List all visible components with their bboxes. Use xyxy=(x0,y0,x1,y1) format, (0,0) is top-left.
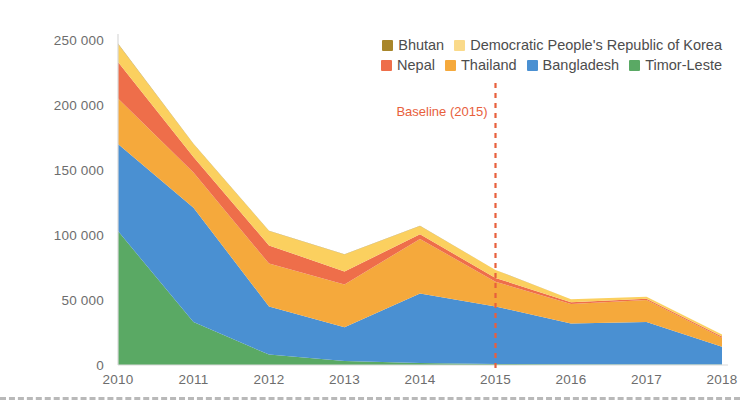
x-axis-labels: 201020112012201320142015201620172018 xyxy=(0,372,740,396)
x-tick-label: 2015 xyxy=(480,372,511,387)
x-tick-label: 2016 xyxy=(556,372,587,387)
x-tick-label: 2011 xyxy=(179,372,209,387)
x-tick-label: 2010 xyxy=(103,372,134,387)
x-tick-label: 2014 xyxy=(405,372,436,387)
baseline-annotation-label: Baseline (2015) xyxy=(396,104,487,119)
plot-area xyxy=(0,0,740,404)
page-divider xyxy=(0,397,740,400)
x-tick-label: 2018 xyxy=(707,372,738,387)
stacked-area-chart: Bhutan Democratic People's Republic of K… xyxy=(0,0,740,404)
x-tick-label: 2017 xyxy=(631,372,662,387)
x-tick-label: 2013 xyxy=(329,372,360,387)
x-tick-label: 2012 xyxy=(254,372,285,387)
